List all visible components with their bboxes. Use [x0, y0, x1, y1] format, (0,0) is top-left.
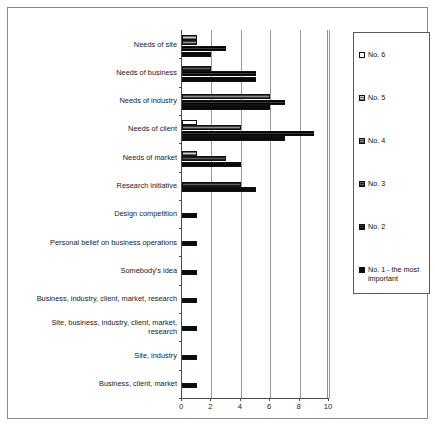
category-label-text: Personal belief on business operations	[50, 238, 177, 247]
category-label: Needs of site	[22, 30, 181, 58]
bar-no-4	[182, 125, 241, 130]
category-label: Business, client, market	[22, 370, 181, 398]
category-tick	[179, 228, 182, 229]
x-axis-line	[181, 398, 329, 399]
category-axis-labels: Needs of siteNeeds of businessNeeds of i…	[22, 30, 181, 398]
category-label-text: Design competition	[114, 209, 177, 218]
bar-no-1-the-most-important	[182, 326, 197, 331]
bar-no-2	[182, 100, 285, 105]
category-tick	[179, 143, 182, 144]
x-tick-label-0: 0	[173, 402, 189, 411]
legend-swatch-no4-icon	[359, 138, 365, 144]
category-label-text: Needs of client	[128, 124, 177, 133]
bar-no-1-the-most-important	[182, 136, 285, 141]
gridline-6	[270, 30, 271, 398]
bar-no-1-the-most-important	[182, 52, 211, 57]
bar-no-1-the-most-important	[182, 355, 197, 360]
category-tick	[179, 313, 182, 314]
category-label: Needs of market	[22, 143, 181, 171]
category-label-text: Somebody's idea	[121, 266, 177, 275]
category-label: Business, industry, client, market, rese…	[22, 285, 181, 313]
x-tick-label-6: 6	[261, 402, 277, 411]
category-tick	[179, 87, 182, 88]
x-tick-mark-4	[240, 398, 241, 401]
bar-no-1-the-most-important	[182, 187, 256, 192]
x-tick-mark-6	[269, 398, 270, 401]
legend-item-no-5[interactable]: No. 5	[359, 94, 385, 103]
x-tick-mark-10	[328, 398, 329, 401]
category-label: Site, industry	[22, 341, 181, 369]
category-label-text: Needs of business	[116, 68, 177, 77]
figure-frame: Needs of siteNeeds of businessNeeds of i…	[7, 7, 428, 419]
gridline-8	[300, 30, 301, 398]
category-label: Needs of industry	[22, 87, 181, 115]
x-tick-mark-8	[299, 398, 300, 401]
category-label: Somebody's idea	[22, 256, 181, 284]
gridline-2	[211, 30, 212, 398]
category-label: Needs of business	[22, 58, 181, 86]
category-label: Design competition	[22, 200, 181, 228]
category-tick	[179, 58, 182, 59]
bar-no-5	[182, 151, 197, 156]
plot-area	[181, 30, 328, 398]
category-tick	[179, 341, 182, 342]
legend-swatch-no2-icon	[359, 224, 365, 230]
bar-no-6	[182, 120, 197, 125]
category-label: Research initiative	[22, 172, 181, 200]
legend-item-no-2[interactable]: No. 2	[359, 223, 385, 232]
category-tick	[179, 172, 182, 173]
bar-no-1-the-most-important	[182, 213, 197, 218]
legend-swatch-no1-icon	[359, 267, 365, 273]
x-tick-label-8: 8	[291, 402, 307, 411]
legend-item-no-6[interactable]: No. 6	[359, 51, 385, 60]
category-label: Personal belief on business operations	[22, 228, 181, 256]
legend-swatch-no6-icon	[359, 52, 365, 58]
chart-legend: No. 6No. 5No. 4No. 3No. 2No. 1 - the mos…	[353, 32, 430, 294]
bar-no-3	[182, 182, 241, 187]
category-label-text: Research initiative	[117, 181, 177, 190]
legend-item-label: No. 4	[368, 137, 385, 146]
bar-no-1-the-most-important	[182, 298, 197, 303]
x-tick-label-10: 10	[320, 402, 336, 411]
legend-item-no-4[interactable]: No. 4	[359, 137, 385, 146]
bar-no-3	[182, 66, 211, 71]
category-label-text: Site, industry	[134, 351, 177, 360]
legend-item-label: No. 5	[368, 94, 385, 103]
bar-no-4	[182, 94, 270, 99]
bar-no-1-the-most-important	[182, 162, 241, 167]
bar-no-5	[182, 35, 197, 40]
category-label: Site, business, industry, client, market…	[22, 313, 181, 341]
category-label-text: Needs of site	[134, 40, 177, 49]
bar-no-1-the-most-important	[182, 241, 197, 246]
x-tick-label-2: 2	[202, 402, 218, 411]
category-label-text: Business, client, market	[99, 379, 177, 388]
bar-no-1-the-most-important	[182, 105, 270, 110]
gridline-10	[329, 30, 330, 398]
legend-item-no-1-the-most-important[interactable]: No. 1 - the most important	[359, 266, 429, 283]
gridline-4	[241, 30, 242, 398]
bar-no-2	[182, 46, 226, 51]
legend-item-no-3[interactable]: No. 3	[359, 180, 385, 189]
bar-no-1-the-most-important	[182, 270, 197, 275]
x-tick-mark-2	[210, 398, 211, 401]
bar-no-4	[182, 40, 197, 45]
legend-item-label: No. 1 - the most important	[368, 266, 429, 283]
bar-no-2	[182, 71, 256, 76]
category-tick	[179, 256, 182, 257]
x-tick-mark-0	[181, 398, 182, 401]
legend-item-label: No. 3	[368, 180, 385, 189]
legend-item-label: No. 2	[368, 223, 385, 232]
category-label-text: Needs of market	[123, 153, 177, 162]
legend-swatch-no5-icon	[359, 95, 365, 101]
x-tick-label-4: 4	[232, 402, 248, 411]
chart-area: Needs of siteNeeds of businessNeeds of i…	[22, 22, 342, 414]
bar-no-2	[182, 131, 314, 136]
category-tick	[179, 200, 182, 201]
legend-item-label: No. 6	[368, 51, 385, 60]
category-label-text: Business, industry, client, market, rese…	[37, 294, 177, 303]
bar-no-1-the-most-important	[182, 77, 256, 82]
category-tick	[179, 115, 182, 116]
category-label: Needs of client	[22, 115, 181, 143]
bar-no-3	[182, 156, 226, 161]
legend-swatch-no3-icon	[359, 181, 365, 187]
